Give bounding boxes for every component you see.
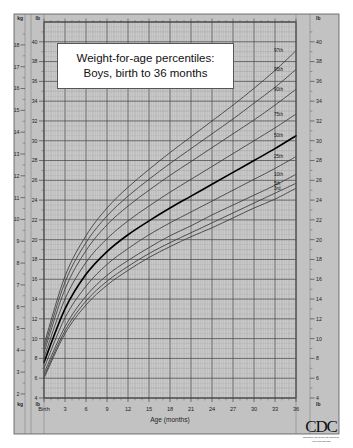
y-tick-lb-right-8: 8 xyxy=(316,355,319,361)
y-tick-lb-left-24: 24 xyxy=(32,197,38,203)
percentile-label-75th: 75th xyxy=(274,112,283,117)
chart-title-line-1: Weight-for-age percentiles: xyxy=(77,51,215,66)
x-tick-33: 33 xyxy=(272,406,278,412)
y-tick-lb-left-8: 8 xyxy=(35,355,38,361)
unit-kg-top-left: kg xyxy=(17,15,23,21)
percentile-label-95th: 95th xyxy=(274,67,283,72)
percentile-label-25th: 25th xyxy=(274,154,283,159)
chart-title-line-2: Boys, birth to 36 months xyxy=(83,66,207,81)
y-tick-kg-8: 8 xyxy=(17,260,20,266)
y-tick-lb-left-20: 20 xyxy=(32,237,38,243)
x-tick-24: 24 xyxy=(209,406,215,412)
unit-kg-bottom-left: kg xyxy=(17,401,23,407)
y-tick-lb-right-34: 34 xyxy=(316,98,322,104)
x-tick-birth: Birth xyxy=(38,406,50,412)
x-tick-36: 36 xyxy=(293,406,299,412)
y-tick-lb-right-10: 10 xyxy=(316,336,322,342)
y-tick-kg-3: 3 xyxy=(17,369,20,375)
y-tick-lb-right-6: 6 xyxy=(316,375,319,381)
y-tick-lb-right-20: 20 xyxy=(316,237,322,243)
y-tick-lb-right-28: 28 xyxy=(316,157,322,163)
y-tick-lb-left-18: 18 xyxy=(32,256,38,262)
cdc-logo: CDC CENTERS FOR DISEASE CONTROL AND PREV… xyxy=(297,418,345,444)
y-tick-kg-13: 13 xyxy=(14,151,20,157)
y-tick-lb-right-12: 12 xyxy=(316,316,322,322)
y-tick-kg-12: 12 xyxy=(14,173,20,179)
y-tick-lb-left-40: 40 xyxy=(32,39,38,45)
y-tick-kg-17: 17 xyxy=(14,64,20,70)
y-tick-lb-right-14: 14 xyxy=(316,296,322,302)
y-tick-lb-left-22: 22 xyxy=(32,217,38,223)
percentile-label-50th: 50th xyxy=(274,133,283,138)
y-tick-lb-right-40: 40 xyxy=(316,39,322,45)
x-tick-12: 12 xyxy=(125,406,131,412)
y-tick-kg-7: 7 xyxy=(17,282,20,288)
y-tick-lb-left-16: 16 xyxy=(32,276,38,282)
x-tick-15: 15 xyxy=(146,406,152,412)
x-tick-6: 6 xyxy=(84,406,87,412)
cdc-logo-subtext-line-1: CENTERS FOR DISEASE CONTROL xyxy=(303,436,340,439)
x-tick-3: 3 xyxy=(63,406,66,412)
y-tick-lb-right-16: 16 xyxy=(316,276,322,282)
y-tick-kg-9: 9 xyxy=(17,238,20,244)
y-tick-lb-left-32: 32 xyxy=(32,118,38,124)
y-tick-lb-left-28: 28 xyxy=(32,157,38,163)
y-tick-kg-11: 11 xyxy=(14,195,19,201)
x-axis-label: Age (months) xyxy=(150,416,190,424)
growth-chart: 97th95th90th75th50th25th10th5th3rd468101… xyxy=(0,0,353,448)
y-tick-lb-left-10: 10 xyxy=(32,336,38,342)
x-tick-27: 27 xyxy=(230,406,236,412)
y-tick-kg-4: 4 xyxy=(17,347,20,353)
y-tick-lb-right-24: 24 xyxy=(316,197,322,203)
y-tick-lb-left-26: 26 xyxy=(32,177,38,183)
y-tick-kg-6: 6 xyxy=(17,304,20,310)
y-tick-lb-left-34: 34 xyxy=(32,98,38,104)
unit-lb-bottom-right: lb xyxy=(316,401,320,407)
percentile-label-10th: 10th xyxy=(274,172,283,177)
y-tick-kg-15: 15 xyxy=(14,107,20,113)
x-tick-30: 30 xyxy=(251,406,257,412)
y-tick-kg-10: 10 xyxy=(14,216,20,222)
percentile-label-3rd: 3rd xyxy=(274,186,281,191)
y-tick-kg-18: 18 xyxy=(14,42,20,48)
y-tick-lb-right-32: 32 xyxy=(316,118,322,124)
cdc-logo-mark: CDC xyxy=(305,418,336,435)
percentile-label-90th: 90th xyxy=(274,87,283,92)
cdc-logo-subtext-line-2: AND PREVENTION xyxy=(311,440,330,443)
y-tick-kg-16: 16 xyxy=(14,85,20,91)
chart-title-callout: Weight-for-age percentiles: Boys, birth … xyxy=(57,43,234,89)
y-tick-lb-right-38: 38 xyxy=(316,58,322,64)
y-tick-lb-right-30: 30 xyxy=(316,138,322,144)
y-tick-kg-14: 14 xyxy=(14,129,20,135)
y-tick-lb-right-22: 22 xyxy=(316,217,322,223)
y-tick-lb-left-30: 30 xyxy=(32,138,38,144)
percentile-label-97th: 97th xyxy=(274,48,283,53)
unit-lb-top-right: lb xyxy=(316,15,320,21)
y-tick-lb-right-36: 36 xyxy=(316,78,322,84)
y-tick-lb-right-26: 26 xyxy=(316,177,322,183)
x-tick-21: 21 xyxy=(188,406,194,412)
y-tick-lb-left-38: 38 xyxy=(32,58,38,64)
y-tick-lb-left-14: 14 xyxy=(32,296,38,302)
y-tick-kg-2: 2 xyxy=(17,391,20,397)
y-tick-lb-left-12: 12 xyxy=(32,316,38,322)
x-tick-9: 9 xyxy=(105,406,108,412)
y-tick-lb-left-6: 6 xyxy=(35,375,38,381)
x-tick-18: 18 xyxy=(167,406,173,412)
y-tick-lb-left-36: 36 xyxy=(32,78,38,84)
y-tick-kg-5: 5 xyxy=(17,325,20,331)
unit-lb-top-left: lb xyxy=(36,15,40,21)
y-tick-lb-right-18: 18 xyxy=(316,256,322,262)
